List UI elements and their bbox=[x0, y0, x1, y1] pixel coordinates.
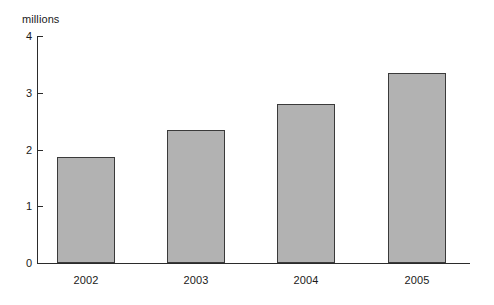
y-tick-label-2: 2 bbox=[16, 145, 32, 156]
bar-2002 bbox=[57, 157, 115, 263]
bar-2003 bbox=[167, 130, 225, 263]
x-axis-label-2005: 2005 bbox=[388, 274, 446, 286]
y-tick-label-3: 3 bbox=[16, 88, 32, 99]
x-axis-label-2003: 2003 bbox=[167, 274, 225, 286]
x-axis-line bbox=[37, 263, 470, 264]
bar-2004 bbox=[277, 104, 335, 263]
y-tick-mark-1 bbox=[38, 206, 43, 207]
bar-2005 bbox=[388, 73, 446, 263]
y-tick-label-4: 4 bbox=[16, 31, 32, 42]
y-tick-label-1: 1 bbox=[16, 201, 32, 212]
y-tick-mark-3 bbox=[38, 93, 43, 94]
y-tick-label-0: 0 bbox=[16, 258, 32, 269]
y-tick-mark-4 bbox=[38, 36, 43, 37]
plot-area: 4 3 2 1 0 2002 2003 2004 2005 bbox=[0, 0, 494, 305]
y-tick-mark-2 bbox=[38, 150, 43, 151]
x-axis-label-2002: 2002 bbox=[57, 274, 115, 286]
x-axis-label-2004: 2004 bbox=[277, 274, 335, 286]
bar-chart: millions 4 3 2 1 0 2002 2003 2004 2005 bbox=[0, 0, 494, 305]
